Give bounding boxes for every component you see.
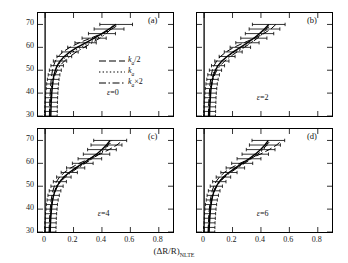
x-tick-label: 0.2: [220, 235, 244, 244]
legend-swatch-dotted: [99, 68, 125, 76]
x-tick-label: 0: [32, 235, 56, 244]
y-tick-label: 70: [12, 18, 34, 27]
panel-a-label: (a): [148, 15, 157, 25]
legend-label: ka×2: [128, 77, 143, 88]
error-bars-retrieved: [203, 139, 284, 232]
legend-swatch-dashed: [99, 57, 125, 65]
legend-item-ka: ka/2: [99, 55, 143, 66]
y-tick-label: 40: [12, 87, 34, 96]
y-tick-label: 50: [12, 64, 34, 73]
panel-a-epsilon-label: ε=0: [99, 88, 143, 99]
y-tick-label: 50: [12, 180, 34, 189]
y-tick-label: 70: [12, 134, 34, 143]
panel-d-epsilon-label: ε=6: [257, 209, 269, 218]
x-tick-label: 0.2: [61, 235, 85, 244]
y-tick-label: 30: [12, 110, 34, 119]
legend-item-ka: ka: [99, 66, 143, 77]
legend-swatch-dashdot: [99, 79, 125, 87]
x-axis-label-subscript: NLTE: [180, 252, 195, 258]
legend-label: ka: [128, 66, 134, 77]
x-tick-label: 0.4: [89, 235, 113, 244]
x-tick-label: 0.4: [248, 235, 272, 244]
x-axis-label: (ΔR/R)NLTE: [0, 246, 348, 258]
legend-label: ka/2: [128, 55, 141, 66]
y-tick-label: 60: [12, 41, 34, 50]
panel-c-epsilon-label: ε=4: [98, 209, 110, 218]
x-tick-label: 0.8: [305, 235, 329, 244]
panel-b-epsilon-label: ε=2: [257, 93, 269, 102]
legend-item-ka: ka×2: [99, 77, 143, 88]
panel-c-label: (c): [148, 131, 157, 141]
x-tick-label: 0: [191, 235, 215, 244]
x-tick-label: 0.6: [117, 235, 141, 244]
x-tick-label: 0.8: [146, 235, 170, 244]
y-tick-label: 40: [12, 203, 34, 212]
x-axis-label-main: (ΔR/R): [153, 246, 179, 256]
y-tick-label: 30: [12, 226, 34, 235]
panel-d-label: (d): [307, 131, 317, 141]
panel-b-label: (b): [307, 15, 317, 25]
figure-root: 切线高/km (ΔR/R)NLTE (a)(b)ε=2(c)ε=4(d)ε=63…: [0, 0, 348, 263]
x-tick-label: 0.6: [276, 235, 300, 244]
legend: ka/2kaka×2ε=0: [99, 55, 143, 99]
y-tick-label: 60: [12, 157, 34, 166]
